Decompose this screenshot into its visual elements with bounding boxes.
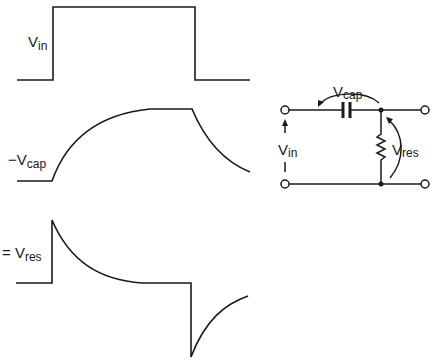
vcap-waveform: −Vcap [8, 109, 250, 181]
rc-differentiator-diagram: Vin −Vcap = Vres Vcap Vres [0, 0, 437, 361]
vin-waveform: Vin [17, 7, 250, 80]
output-terminal-bottom-icon [421, 180, 429, 188]
output-terminal-top-icon [421, 106, 429, 114]
vin-label: Vin [28, 33, 47, 53]
input-terminal-bottom-icon [281, 180, 289, 188]
vres-circuit-label: Vres [392, 141, 419, 160]
vcap-label: −Vcap [8, 151, 46, 171]
vin-circuit-label: Vin [278, 141, 297, 160]
vcap-circuit-label: Vcap [333, 83, 363, 102]
rc-circuit: Vcap Vres Vin [278, 83, 429, 188]
input-terminal-top-icon [281, 106, 289, 114]
resistor-icon [377, 110, 385, 184]
vres-label: = Vres [2, 244, 42, 264]
vres-waveform: = Vres [2, 220, 248, 357]
vin-arrowhead-icon [282, 119, 288, 126]
